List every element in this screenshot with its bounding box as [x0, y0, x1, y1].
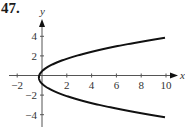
y-axis-label: y — [39, 5, 45, 17]
y-tick-label: −4 — [25, 109, 37, 121]
y-tick-label: 4 — [32, 30, 38, 42]
x-tick-label: −2 — [11, 79, 23, 91]
x-tick-label: 10 — [161, 79, 173, 91]
chart: xy −224681042−2−4 — [0, 0, 185, 130]
x-tick-label: 4 — [89, 79, 95, 91]
curve — [39, 38, 165, 117]
y-tick-label: −2 — [25, 89, 37, 101]
x-tick-label: 8 — [138, 79, 144, 91]
y-tick-label: 2 — [32, 50, 38, 62]
y-arrow-icon — [39, 19, 45, 27]
x-tick-label: 6 — [114, 79, 120, 91]
x-tick-label: 2 — [64, 79, 70, 91]
x-axis-label: x — [179, 69, 185, 81]
